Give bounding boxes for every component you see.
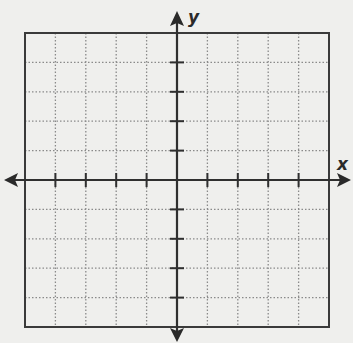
y-axis-label: y bbox=[188, 9, 199, 26]
x-axis-label: x bbox=[337, 156, 348, 173]
coordinate-plane bbox=[0, 0, 353, 343]
